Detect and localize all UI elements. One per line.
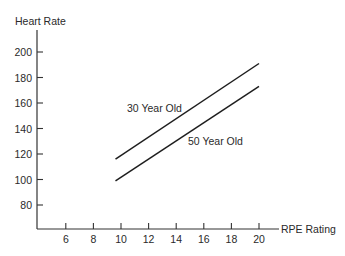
axes (37, 30, 279, 229)
y-tick-label: 80 (20, 199, 32, 211)
y-axis-label: Heart Rate (15, 15, 66, 27)
y-tick-label: 200 (14, 46, 32, 58)
y-tick-label: 180 (14, 72, 32, 84)
x-tick-label: 20 (253, 233, 265, 245)
series-label: 30 Year Old (127, 102, 182, 114)
x-tick-label: 8 (90, 233, 96, 245)
y-tick-label: 140 (14, 123, 32, 135)
x-tick-label: 6 (63, 233, 69, 245)
y-tick-label: 120 (14, 148, 32, 160)
x-axis-ticks: 68101214161820 (63, 223, 265, 245)
heart-rate-vs-rpe-chart: 80100120140160180200 68101214161820 30 Y… (0, 0, 345, 256)
x-axis-label: RPE Rating (281, 223, 336, 235)
x-tick-label: 12 (143, 233, 155, 245)
x-tick-label: 16 (198, 233, 210, 245)
y-tick-label: 100 (14, 174, 32, 186)
x-tick-label: 10 (115, 233, 127, 245)
series-line-50-year-old (116, 86, 260, 180)
series-label: 50 Year Old (188, 135, 243, 147)
y-tick-label: 160 (14, 97, 32, 109)
series-lines: 30 Year Old50 Year Old (116, 64, 260, 181)
x-tick-label: 14 (170, 233, 182, 245)
y-axis-ticks: 80100120140160180200 (14, 46, 43, 211)
x-tick-label: 18 (226, 233, 238, 245)
